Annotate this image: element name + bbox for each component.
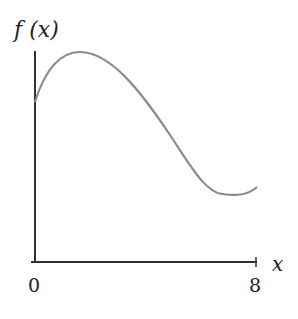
chart-canvas: f (x) x 0 8	[0, 0, 298, 319]
x-tick-label-8: 8	[249, 274, 261, 296]
x-tick-label-0: 0	[28, 274, 40, 296]
y-axis-label: f (x)	[12, 17, 59, 42]
x-axis-label: x	[272, 252, 283, 276]
function-curve	[35, 52, 257, 195]
